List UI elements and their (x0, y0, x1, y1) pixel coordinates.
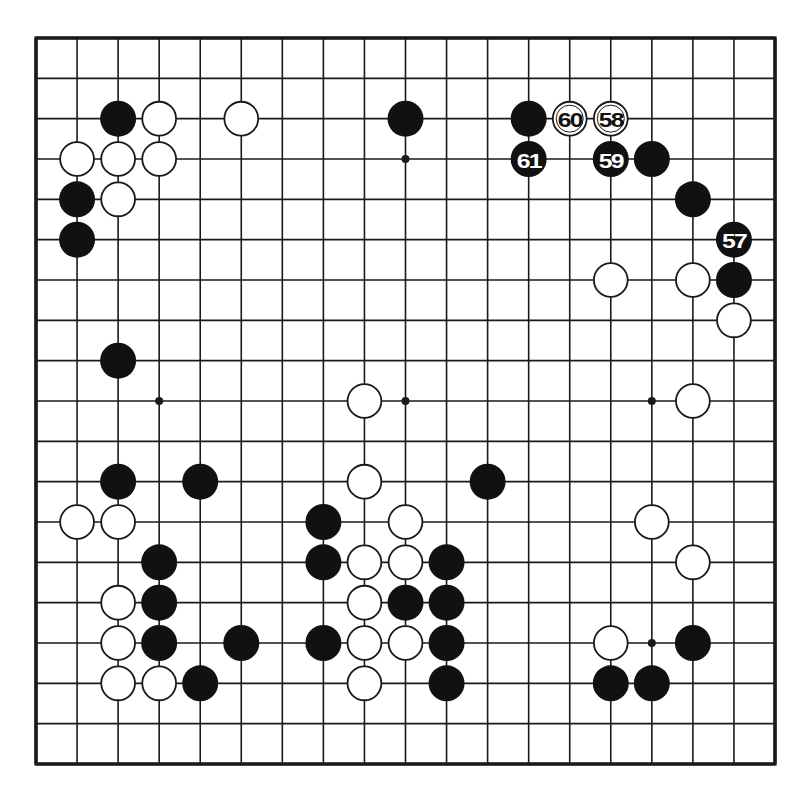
go-board: 5758596061 (0, 0, 809, 794)
white-stone (224, 102, 258, 136)
black-stone (593, 665, 629, 701)
black-stone (511, 101, 547, 137)
white-stone (348, 666, 382, 700)
white-stone (717, 303, 751, 337)
black-stone (429, 544, 465, 580)
black-stone (429, 665, 465, 701)
white-stone (348, 384, 382, 418)
white-stone (594, 263, 628, 297)
white-stone (348, 586, 382, 620)
white-stone (142, 102, 176, 136)
black-stone (429, 625, 465, 661)
white-stone (142, 142, 176, 176)
black-stone (675, 181, 711, 217)
white-stone (348, 465, 382, 499)
numbered-stone-57: 57 (716, 222, 752, 258)
white-stone (101, 142, 135, 176)
numbered-stone-61: 61 (511, 141, 547, 177)
black-stone (716, 262, 752, 298)
black-stone (388, 101, 424, 137)
white-stone (594, 626, 628, 660)
white-stone (348, 545, 382, 579)
black-stone (182, 464, 218, 500)
black-stone (141, 544, 177, 580)
star-point (648, 639, 656, 647)
white-stone (101, 626, 135, 660)
white-stone (635, 505, 669, 539)
black-stone (100, 343, 136, 379)
black-stone (470, 464, 506, 500)
black-stone (223, 625, 259, 661)
star-point (402, 155, 410, 163)
black-stone (100, 101, 136, 137)
white-stone (348, 626, 382, 660)
white-stone (60, 142, 94, 176)
black-stone (100, 464, 136, 500)
black-stone (59, 222, 95, 258)
black-stone (388, 585, 424, 621)
move-number: 59 (599, 149, 624, 172)
star-point (155, 397, 163, 405)
white-stone (676, 384, 710, 418)
star-point (648, 397, 656, 405)
black-stone (305, 544, 341, 580)
star-point (402, 397, 410, 405)
move-number: 57 (722, 229, 747, 252)
move-number: 61 (517, 149, 543, 172)
black-stone (305, 504, 341, 540)
move-number: 60 (558, 108, 583, 131)
numbered-stone-58: 58 (594, 102, 628, 136)
white-stone (676, 545, 710, 579)
black-stone (429, 585, 465, 621)
white-stone (389, 505, 423, 539)
white-stone (101, 586, 135, 620)
white-stone (101, 505, 135, 539)
black-stone (675, 625, 711, 661)
black-stone (634, 141, 670, 177)
white-stone (389, 545, 423, 579)
numbered-stone-59: 59 (593, 141, 629, 177)
black-stone (59, 181, 95, 217)
white-stone (101, 666, 135, 700)
white-stone (60, 505, 94, 539)
black-stone (141, 585, 177, 621)
numbered-stone-60: 60 (553, 102, 587, 136)
black-stone (141, 625, 177, 661)
white-stone (101, 182, 135, 216)
black-stone (634, 665, 670, 701)
numbered-moves-layer: 5758596061 (511, 102, 752, 258)
white-stone (389, 626, 423, 660)
white-stone (676, 263, 710, 297)
black-stone (305, 625, 341, 661)
white-stone (142, 666, 176, 700)
move-number: 58 (599, 108, 625, 131)
black-stone (182, 665, 218, 701)
